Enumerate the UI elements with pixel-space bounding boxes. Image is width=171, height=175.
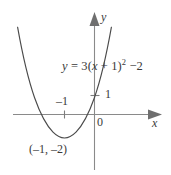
- equation-annotation: y = 3(x + 1)2 −2: [62, 58, 143, 73]
- graph-canvas: [0, 0, 171, 175]
- origin-label: 0: [97, 116, 103, 128]
- y-axis-arrowhead: [90, 12, 100, 26]
- x-tick-label-minus-one: –1: [56, 95, 68, 107]
- parabola-figure: y = 3(x + 1)2 −2 y x 0 1 –1 (–1, –2): [0, 0, 171, 175]
- equation-trailing-constant: 2: [137, 59, 143, 73]
- equation-equals: =: [71, 59, 78, 73]
- equation-minus: −: [129, 59, 136, 73]
- x-axis-label: x: [152, 117, 157, 129]
- equation-plus: +: [101, 59, 108, 73]
- y-tick-label-one: 1: [105, 88, 111, 100]
- y-axis-label: y: [101, 11, 106, 23]
- vertex-coordinate-label: (–1, –2): [29, 143, 67, 155]
